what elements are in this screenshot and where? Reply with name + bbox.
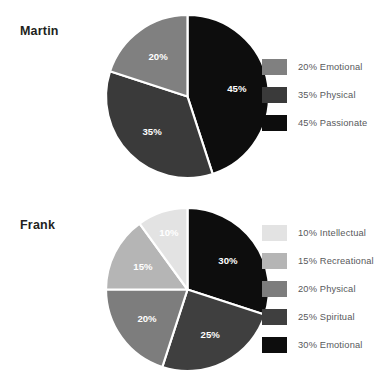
- legend-swatch-icon: [262, 281, 287, 297]
- pie-slice-label: 35%: [143, 126, 163, 137]
- pie-chart-martin: 45%35%20%: [105, 14, 270, 179]
- pie-slice-label: 25%: [201, 329, 221, 340]
- legend-swatch-icon: [262, 337, 287, 353]
- pie-slice-label: 10%: [159, 227, 179, 238]
- pie-svg-frank: 30%25%20%15%10%: [105, 207, 270, 372]
- chart-title-frank: Frank: [20, 218, 55, 232]
- legend-swatch-icon: [262, 253, 287, 269]
- legend-item[interactable]: 20% Emotional: [262, 59, 367, 75]
- pie-slices-frank: [106, 208, 269, 371]
- pie-svg-martin: 45%35%20%: [105, 14, 270, 179]
- pie-slice-label: 45%: [227, 83, 247, 94]
- legend-item-label: 20% Emotional: [298, 62, 362, 72]
- chart-title-martin: Martin: [20, 24, 59, 38]
- pie-slice-label: 20%: [137, 313, 157, 324]
- legend-martin: 20% Emotional35% Physical45% Passionate: [262, 59, 367, 131]
- legend-item[interactable]: 15% Recreational: [262, 253, 374, 269]
- legend-swatch-icon: [262, 59, 287, 75]
- pie-chart-block-martin: Martin 45%35%20% 20% Emotional35% Physic…: [0, 0, 389, 193]
- legend-item[interactable]: 35% Physical: [262, 87, 367, 103]
- legend-item-label: 35% Physical: [298, 90, 356, 100]
- legend-item-label: 15% Recreational: [298, 256, 374, 266]
- legend-frank: 10% Intellectual15% Recreational20% Phys…: [262, 225, 374, 353]
- legend-swatch-icon: [262, 309, 287, 325]
- pie-slice-label: 20%: [149, 51, 169, 62]
- legend-swatch-icon: [262, 87, 287, 103]
- legend-item-label: 10% Intellectual: [298, 228, 366, 238]
- legend-item-label: 45% Passionate: [298, 118, 367, 128]
- legend-item[interactable]: 45% Passionate: [262, 115, 367, 131]
- pie-slices-martin: [106, 15, 269, 178]
- pie-chart-block-frank: Frank 30%25%20%15%10% 10% Intellectual15…: [0, 193, 389, 386]
- legend-item[interactable]: 25% Spiritual: [262, 309, 374, 325]
- legend-item[interactable]: 30% Emotional: [262, 337, 374, 353]
- pie-slice-label: 30%: [218, 255, 238, 266]
- legend-swatch-icon: [262, 225, 287, 241]
- legend-item[interactable]: 10% Intellectual: [262, 225, 374, 241]
- legend-swatch-icon: [262, 115, 287, 131]
- pie-slice-label: 15%: [133, 261, 153, 272]
- legend-item-label: 30% Emotional: [298, 340, 362, 350]
- legend-item-label: 25% Spiritual: [298, 312, 355, 322]
- legend-item[interactable]: 20% Physical: [262, 281, 374, 297]
- legend-item-label: 20% Physical: [298, 284, 356, 294]
- pie-chart-frank: 30%25%20%15%10%: [105, 207, 270, 372]
